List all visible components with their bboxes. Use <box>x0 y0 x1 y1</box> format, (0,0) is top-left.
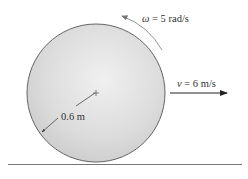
angular-velocity-label: ω = 5 rad/s <box>142 13 189 24</box>
linear-velocity-label: v = 6 m/s <box>177 78 216 89</box>
radius-label: 0.6 m <box>61 111 85 122</box>
wheel-diagram: ω = 5 rad/s v = 6 m/s 0.6 m <box>0 0 248 179</box>
